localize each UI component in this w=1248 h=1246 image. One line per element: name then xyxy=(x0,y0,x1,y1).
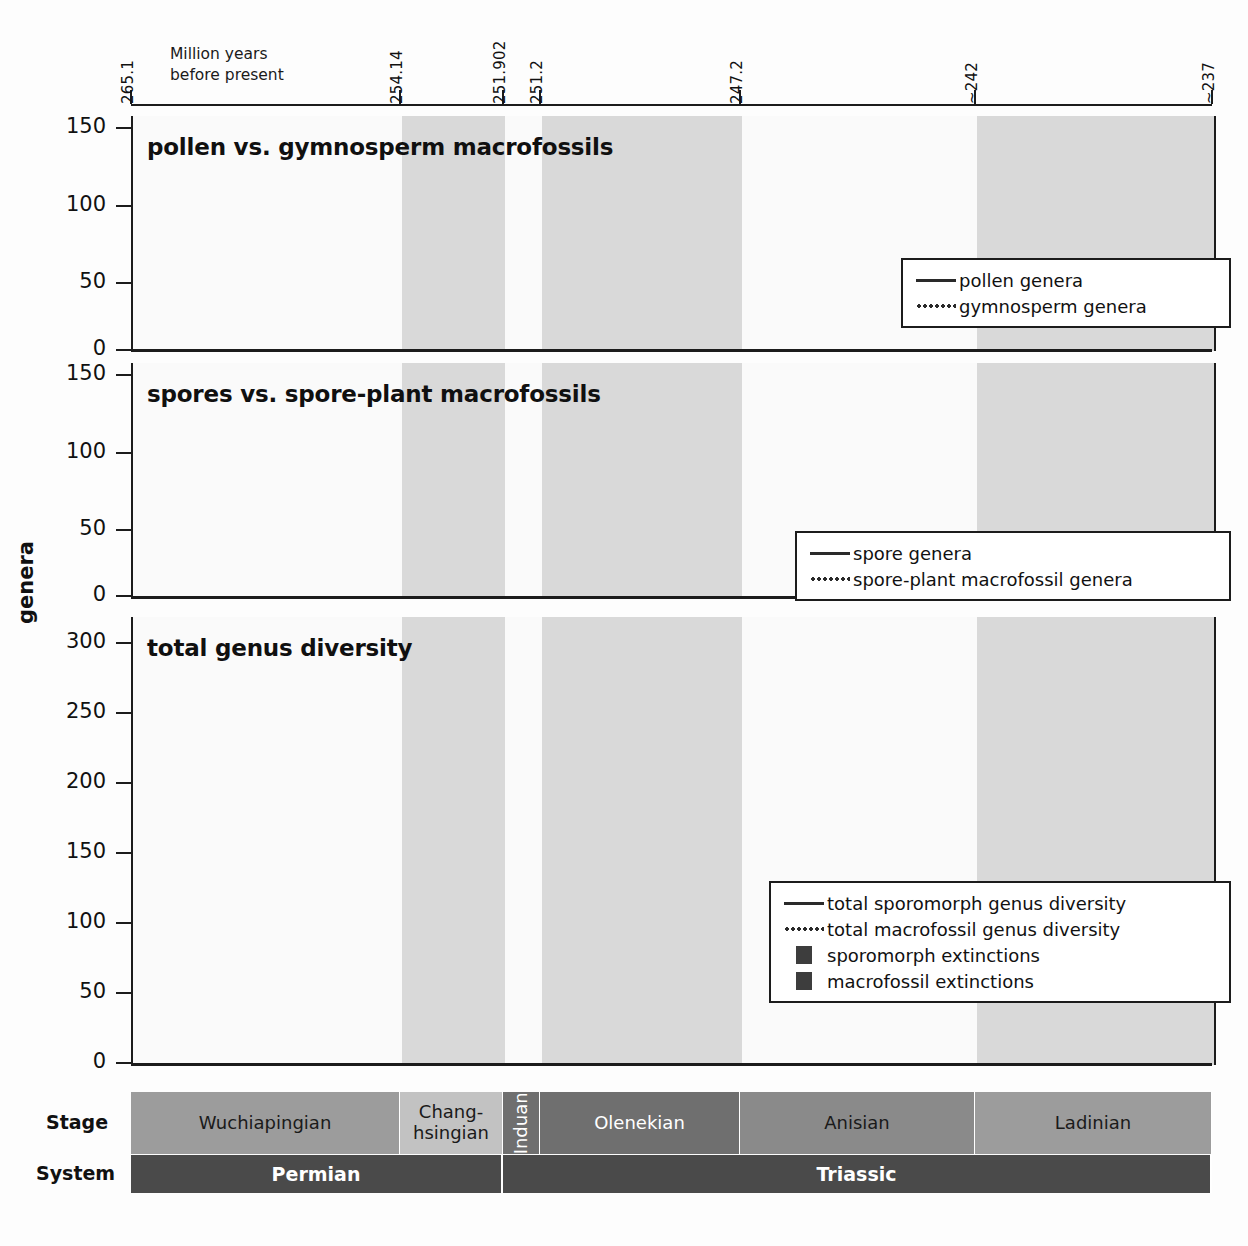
y-tick-label-spores-vs-spore-plant-50: 50 xyxy=(40,516,106,540)
stage-cell-ladinian[interactable]: Ladinian xyxy=(975,1092,1212,1154)
legend-label: gymnosperm genera xyxy=(959,296,1147,317)
line-solid-icon xyxy=(784,902,824,905)
legend-item: macrofossil extinctions xyxy=(781,968,1215,994)
y-tick-label-spores-vs-spore-plant-100: 100 xyxy=(40,439,106,463)
y-tick-label-total-genus-diversity-100: 100 xyxy=(40,909,106,933)
top-axis-tick-label-4: 247.2 xyxy=(728,60,746,104)
legend-item: gymnosperm genera xyxy=(913,293,1215,319)
y-tick-pollen-vs-gymnosperm-100 xyxy=(116,205,131,207)
legend-pollen-vs-gymnosperm: pollen generagymnosperm genera xyxy=(901,258,1231,328)
legend-item: sporomorph extinctions xyxy=(781,942,1215,968)
stage-row-label: Stage xyxy=(46,1111,108,1133)
line-solid-icon xyxy=(810,552,850,555)
y-tick-label-pollen-vs-gymnosperm-50: 50 xyxy=(40,269,106,293)
y-tick-total-genus-diversity-0 xyxy=(116,1062,131,1064)
bar-swatch-icon xyxy=(796,972,812,990)
y-tick-label-total-genus-diversity-250: 250 xyxy=(40,699,106,723)
system-cell-triassic[interactable]: Triassic xyxy=(503,1155,1212,1193)
panel-title-total-genus-diversity: total genus diversity xyxy=(147,635,412,661)
y-tick-label-spores-vs-spore-plant-0: 0 xyxy=(40,582,106,606)
y-tick-spores-vs-spore-plant-0 xyxy=(116,595,131,597)
top-axis-tick-label-6: ~237 xyxy=(1200,62,1218,104)
top-axis-tick-label-1: 254.14 xyxy=(388,50,406,104)
panel-title-spores-vs-spore-plant: spores vs. spore-plant macrofossils xyxy=(147,381,601,407)
legend-total-genus-diversity: total sporomorph genus diversitytotal ma… xyxy=(769,881,1231,1003)
y-tick-total-genus-diversity-150 xyxy=(116,852,131,854)
top-axis-tick-label-0: 265.1 xyxy=(119,60,137,104)
stage-cell-label: Wuchiapingian xyxy=(196,1113,335,1134)
line-dotted-icon xyxy=(916,304,956,308)
line-dotted-icon xyxy=(784,927,824,931)
top-axis-tick-label-2: 251.902 xyxy=(491,41,509,104)
legend-label: sporomorph extinctions xyxy=(827,945,1040,966)
legend-item: spore genera xyxy=(807,540,1215,566)
y-tick-label-total-genus-diversity-50: 50 xyxy=(40,979,106,1003)
legend-item: total sporomorph genus diversity xyxy=(781,890,1215,916)
stage-cell-induan[interactable]: Induan xyxy=(503,1092,540,1154)
y-tick-label-pollen-vs-gymnosperm-150: 150 xyxy=(40,114,106,138)
stage-cell-label: Chang-hsingian xyxy=(410,1102,492,1143)
panel-title-pollen-vs-gymnosperm: pollen vs. gymnosperm macrofossils xyxy=(147,134,613,160)
y-tick-label-total-genus-diversity-200: 200 xyxy=(40,769,106,793)
y-tick-spores-vs-spore-plant-150 xyxy=(116,374,131,376)
top-axis-tick-label-3: 251.2 xyxy=(528,60,546,104)
stage-cell-wuchiapingian[interactable]: Wuchiapingian xyxy=(131,1092,400,1154)
y-tick-pollen-vs-gymnosperm-0 xyxy=(116,349,131,351)
line-dotted-icon xyxy=(810,577,850,581)
bar-swatch-icon xyxy=(796,946,812,964)
system-cell-permian[interactable]: Permian xyxy=(131,1155,503,1193)
stage-cell-changhsingian[interactable]: Chang-hsingian xyxy=(400,1092,503,1154)
y-tick-label-total-genus-diversity-300: 300 xyxy=(40,629,106,653)
y-tick-total-genus-diversity-50 xyxy=(116,992,131,994)
stage-cell-label: Anisian xyxy=(821,1113,893,1134)
y-tick-pollen-vs-gymnosperm-50 xyxy=(116,282,131,284)
legend-label: spore-plant macrofossil genera xyxy=(853,569,1133,590)
top-axis-tick-label-5: ~242 xyxy=(963,62,981,104)
y-axis-title: genera xyxy=(14,541,38,624)
system-row-label: System xyxy=(36,1162,115,1184)
stage-cell-label: Ladinian xyxy=(1052,1113,1134,1134)
y-tick-label-pollen-vs-gymnosperm-100: 100 xyxy=(40,192,106,216)
panel-rule-1 xyxy=(131,349,1212,352)
legend-label: pollen genera xyxy=(959,270,1083,291)
legend-label: total macrofossil genus diversity xyxy=(827,919,1120,940)
y-tick-total-genus-diversity-200 xyxy=(116,782,131,784)
top-axis-line xyxy=(131,104,1212,106)
stage-cell-label: Olenekian xyxy=(591,1113,688,1134)
axis-caption-line1: Million years xyxy=(170,44,284,65)
figure-root: 265.1254.14251.902251.2247.2~242~237 Mil… xyxy=(0,0,1248,1246)
y-tick-label-total-genus-diversity-0: 0 xyxy=(40,1049,106,1073)
legend-item: total macrofossil genus diversity xyxy=(781,916,1215,942)
y-tick-total-genus-diversity-100 xyxy=(116,922,131,924)
y-tick-label-pollen-vs-gymnosperm-0: 0 xyxy=(40,336,106,360)
y-tick-label-total-genus-diversity-150: 150 xyxy=(40,839,106,863)
y-tick-total-genus-diversity-300 xyxy=(116,642,131,644)
legend-item: pollen genera xyxy=(913,267,1215,293)
stage-cell-label: Induan xyxy=(511,1089,532,1157)
axis-caption-line2: before present xyxy=(170,65,284,86)
legend-label: macrofossil extinctions xyxy=(827,971,1034,992)
panel-rule-3 xyxy=(131,1063,1212,1066)
y-tick-spores-vs-spore-plant-50 xyxy=(116,529,131,531)
y-tick-spores-vs-spore-plant-100 xyxy=(116,452,131,454)
stage-cell-anisian[interactable]: Anisian xyxy=(740,1092,975,1154)
legend-label: spore genera xyxy=(853,543,972,564)
legend-label: total sporomorph genus diversity xyxy=(827,893,1126,914)
y-tick-pollen-vs-gymnosperm-150 xyxy=(116,127,131,129)
y-tick-total-genus-diversity-250 xyxy=(116,712,131,714)
line-solid-icon xyxy=(916,279,956,282)
legend-item: spore-plant macrofossil genera xyxy=(807,566,1215,592)
legend-spores-vs-spore-plant: spore generaspore-plant macrofossil gene… xyxy=(795,531,1231,601)
axis-caption: Million years before present xyxy=(170,44,284,86)
system-cell-label: Triassic xyxy=(817,1163,897,1185)
y-tick-label-spores-vs-spore-plant-150: 150 xyxy=(40,361,106,385)
stage-cell-olenekian[interactable]: Olenekian xyxy=(540,1092,740,1154)
system-cell-label: Permian xyxy=(272,1163,361,1185)
